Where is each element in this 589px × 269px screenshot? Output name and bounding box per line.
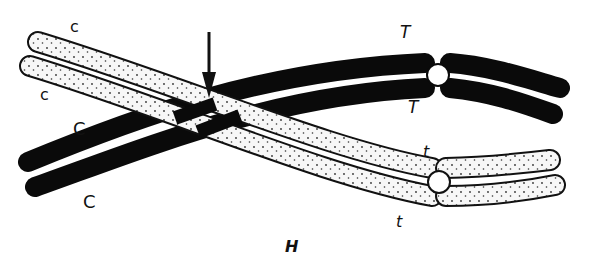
- label-t-bottom: t: [396, 212, 403, 231]
- label-t-top: t: [423, 142, 430, 161]
- centromere-light: [428, 171, 450, 193]
- label-T-bottom: T: [408, 97, 420, 117]
- centromere-dark: [427, 64, 449, 86]
- label-c-upper-2: c: [40, 85, 49, 104]
- crossover-diagram: c c C C T T t t H: [0, 0, 589, 269]
- label-c-upper-1: c: [70, 17, 79, 36]
- label-C-dark-1: C: [73, 118, 86, 139]
- label-T-top: T: [400, 22, 412, 42]
- label-C-dark-2: C: [83, 191, 96, 212]
- panel-label: H: [285, 237, 299, 256]
